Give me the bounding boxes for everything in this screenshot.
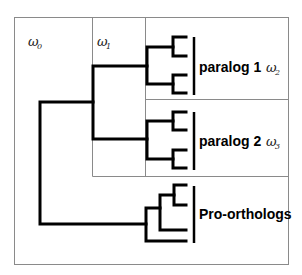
svg-text:1: 1: [106, 42, 111, 51]
paralog2-cherry-a: [173, 112, 186, 130]
paralog2-label: paralog 2: [199, 133, 261, 149]
phylogenetic-tree: [40, 37, 186, 241]
paralog2-cherry-b: [173, 150, 186, 168]
omega2-label: ω 2: [266, 60, 280, 77]
paralog1-cherry-b: [173, 75, 186, 93]
paralog-ancestor-branch: [93, 66, 147, 139]
pro-orthologs-node: [146, 208, 186, 241]
paralog2-node: [147, 121, 173, 159]
paralog1-cherry-a: [173, 37, 186, 56]
svg-text:3: 3: [275, 142, 280, 151]
omega3-label: ω 3: [266, 134, 280, 151]
pro-orthologs-label: Pro-orthologs: [199, 206, 292, 222]
svg-text:2: 2: [274, 68, 280, 77]
omega1-label: ω 1: [97, 34, 111, 51]
phylogeny-diagram: paralog 1 paralog 2 Pro-orthologs ω 0 ω …: [0, 0, 302, 275]
pro-orthologs-cherry: [174, 185, 186, 205]
paralog1-label: paralog 1: [199, 59, 261, 75]
svg-text:0: 0: [37, 42, 42, 51]
paralog1-node: [147, 47, 173, 84]
omega0-label: ω 0: [28, 34, 42, 51]
